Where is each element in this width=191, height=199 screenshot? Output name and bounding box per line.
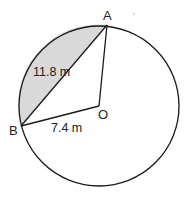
circle-segment-diagram: A B O 11.8 m 7.4 m — [0, 0, 191, 199]
radius-length-label: 7.4 m — [51, 121, 82, 135]
speck — [133, 13, 134, 14]
point-label-a: A — [103, 8, 112, 23]
point-label-b: B — [9, 123, 18, 138]
radius-oa — [99, 25, 107, 106]
point-label-o: O — [98, 107, 108, 122]
chord-length-label: 11.8 m — [33, 65, 70, 79]
